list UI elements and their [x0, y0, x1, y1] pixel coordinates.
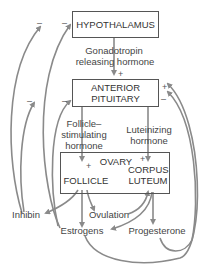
corpus-plus-sign: +	[140, 155, 145, 164]
gnrh-label-line2: releasing hormone	[72, 56, 158, 67]
anterior-pituitary-label-line2: PITUITARY	[73, 93, 158, 104]
pituitary-plus-sign: +	[162, 83, 167, 92]
inhibin-feedback-inner-arrow	[21, 103, 34, 212]
lh-label-line2: hormone	[123, 135, 175, 146]
fsh-label-line3: hormone	[58, 140, 110, 151]
gnrh-label-line1: Gonadotropin	[78, 45, 150, 56]
corpus-luteum-label-line1: CORPUS	[128, 164, 168, 175]
hypothalamus-label: HYPOTHALAMUS	[73, 19, 158, 30]
pituitary-minus-sign-inner: –	[62, 97, 67, 106]
anterior-pituitary-box: ANTERIOR PITUITARY	[72, 79, 159, 107]
inhibin-label: Inhibin	[8, 209, 44, 220]
fsh-label-line2: stimulating	[58, 129, 110, 140]
gnrh-plus-sign: +	[118, 70, 123, 79]
pituitary-minus-sign-right: –	[161, 95, 166, 104]
hypothalamus-minus-sign-outer: –	[37, 19, 42, 28]
hypothalamus-minus-sign-inner: –	[62, 19, 67, 28]
inhibin-feedback-outer-arrow	[11, 27, 40, 213]
follicle-label: FOLLICLE	[62, 175, 110, 186]
pituitary-minus-sign-outer: –	[27, 97, 32, 106]
ovulation-label: Ovulation	[86, 209, 132, 220]
lh-label-line1: Luteinizing	[123, 124, 175, 135]
fsh-label-line1: Follicle–	[60, 118, 108, 129]
hypothalamus-box: HYPOTHALAMUS	[72, 11, 159, 38]
follicle-plus-sign: +	[86, 162, 91, 171]
progesterone-label: Progesterone	[126, 225, 188, 236]
anterior-pituitary-label-line1: ANTERIOR	[73, 82, 158, 93]
corpus-luteum-label-line2: LUTEUM	[128, 175, 168, 186]
estrogens-label: Estrogens	[58, 225, 106, 236]
